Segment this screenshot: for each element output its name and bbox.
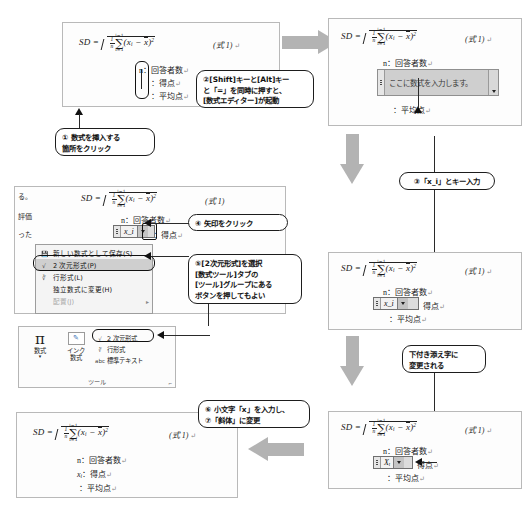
equation-editor-handle[interactable]	[114, 226, 121, 237]
flowchart-canvas: SD = 1n∑i=1i=1(xi − x)2 (式 1) ↵ n：回答者数↵ …	[0, 0, 530, 520]
ribbon-two-dimensional-highlight-ring	[92, 329, 154, 342]
step7-legend-n: n：回答者数↵	[77, 454, 127, 465]
step7-equation-number: (式 1) ↵	[169, 429, 196, 440]
abc-icon: abc	[95, 356, 105, 365]
equation-editor-placeholder: ここに数式を入力します。	[385, 77, 488, 88]
chevron-down-icon[interactable]: ▾	[39, 354, 42, 359]
callout-5-pointer-arrow	[144, 219, 151, 227]
ribbon-pointer-line	[164, 335, 210, 336]
equation-editor-dropdown-arrow[interactable]	[488, 70, 498, 95]
equation-editor-dropdown-arrow[interactable]	[397, 298, 408, 309]
ink-equation-icon: ✎	[68, 332, 85, 345]
step3-document-panel: SD = 1n∑i=1i=1(xi − x)2 (式 1) ↵ n：回答者数↵ …	[328, 252, 522, 330]
step3-legend-n: n：回答者数↵	[383, 286, 433, 297]
equation-editor-subscripted-box[interactable]: Xᵢ	[373, 456, 413, 469]
ribbon-pointer-arrow	[157, 331, 164, 339]
callout-3-stem-lower	[434, 190, 435, 252]
step3-legend-score-tail: ：得点↵	[415, 300, 445, 311]
block-arrow-step4-to-step7	[246, 437, 304, 462]
ribbon-button-label: 標準テキスト	[107, 356, 143, 365]
step5-legend-score-tail: ：得点↵	[153, 229, 183, 240]
callout-5: ④ 矢印をクリック	[188, 214, 288, 231]
step3-equation-number: (式 1) ↵	[465, 265, 492, 276]
ribbon-button-label: インク 数式	[67, 347, 85, 361]
callout-6-line	[151, 256, 189, 257]
step4-legend-n: n：回答者数↵	[383, 445, 433, 456]
step1-pointer-stem	[79, 114, 80, 128]
step4-formula: SD = 1n∑i=1i=1(xi − x)2	[341, 422, 416, 435]
callout-3: ③「x_i」とキー入力	[399, 172, 495, 190]
step1-equation-number: (式 1) ↵	[213, 39, 240, 50]
step5-formula: SD = 1n∑i=1i=1(xi − x)2	[81, 193, 156, 206]
ribbon-button-label: 行形式	[107, 345, 125, 354]
step4-legend-mean: ：平均点↵	[387, 472, 425, 483]
step1-legend-mean: ：平均点↵	[151, 90, 189, 101]
callout-4-stem	[434, 373, 435, 411]
linear-icon: ∛	[95, 345, 105, 354]
step1-legend-score: ：得点↵	[151, 77, 181, 88]
pi-icon: π	[35, 332, 45, 347]
ribbon-button-normal-text[interactable]: abc 標準テキスト	[95, 355, 143, 366]
ribbon-button-equation[interactable]: π 数式 ▾	[25, 332, 55, 359]
callout-3-stem	[434, 136, 435, 172]
equation-editor-handle[interactable]	[378, 70, 385, 95]
step2-legend-n: n：回答者数↵	[383, 57, 433, 68]
context-menu-item-label: 行形式(L)	[53, 272, 83, 282]
equation-editor-handle[interactable]	[374, 298, 381, 309]
step1-formula: SD = 1n∑i=1i=1(xi − x)2	[79, 37, 154, 50]
equation-editor-typed-box[interactable]: x_i	[373, 297, 419, 310]
context-menu-item-linear[interactable]: ∛ 行形式(L)	[36, 271, 152, 283]
dialog-launcher-icon[interactable]: ⌐	[168, 380, 172, 386]
callout-5-line	[151, 223, 189, 224]
step2-legend-mean: ：平均点↵	[393, 104, 431, 115]
equation-editor-typed-value: x_i	[381, 298, 397, 309]
step5-equation-number: (式 1)	[205, 195, 224, 206]
linear-icon: ∛	[38, 272, 50, 282]
context-menu-item-label: 独立数式に変更(H)	[53, 284, 112, 294]
equation-editor-value: x_i	[121, 226, 137, 237]
blank-icon	[38, 284, 50, 294]
step1-insertion-point-ring[interactable]	[135, 61, 149, 99]
block-arrow-step2-to-step3	[340, 134, 365, 186]
step4-legend-score-tail: ：得点↵	[409, 459, 439, 470]
ribbon-button-linear[interactable]: ∛ 行形式	[95, 344, 143, 355]
block-arrow-step3-to-step4	[340, 336, 365, 388]
ribbon-buttons-row: π 数式 ▾ ✎ インク 数式	[25, 332, 91, 361]
context-menu-item-alignment[interactable]: 配置(J) ▸	[36, 295, 152, 307]
step7-legend-mean: ：平均点↵	[79, 482, 117, 493]
ribbon-group-label: ツール	[19, 377, 175, 386]
equation-editor-handle[interactable]	[374, 457, 381, 468]
callout-6-stem-down	[208, 304, 209, 326]
document-fragment-1: る。	[18, 191, 32, 201]
two-dimensional-highlight-ring	[33, 255, 155, 271]
ribbon-button-ink-equation[interactable]: ✎ インク 数式	[61, 332, 91, 361]
callout-2: ②[Shift]キーと[Alt]キー と「=」を同時に押すと、 [数式エディター…	[196, 70, 314, 108]
context-menu-item-change-to-display[interactable]: 独立数式に変更(H)	[36, 283, 152, 295]
step4-equation-number: (式 1) ↵	[465, 424, 492, 435]
callout-6: ⑤[2次元形式]を選択 [数式ツール]タブの [ツール]グループにある ボタンを…	[188, 254, 302, 304]
callout-1: ① 数式を挿入する 箇所をクリック	[55, 128, 155, 156]
callout-6-pointer-arrow	[144, 252, 151, 260]
step7-formula: SD = 1n∑i=1i=1(xi − x)2	[33, 427, 108, 440]
step2-formula: SD = 1n∑i=1i=1(xi − x)2	[341, 31, 416, 44]
document-fragment-3: った	[18, 229, 32, 239]
chevron-right-icon: ▸	[146, 298, 152, 305]
callout-7: ⑥ 小文字「x」を入力し、 ⑦「斜体」に変更	[198, 400, 310, 428]
equation-editor-input[interactable]: ここに数式を入力します。	[377, 69, 499, 96]
step4-pointer-line	[421, 462, 437, 463]
step2-equation-number: (式 1) ↵	[465, 33, 492, 44]
equation-editor-dropdown-arrow[interactable]	[393, 457, 404, 468]
step7-legend-score: xi：得点↵	[77, 468, 112, 480]
document-fragment-2: 評価	[18, 211, 32, 221]
step3-formula: SD = 1n∑i=1i=1(xi − x)2	[341, 263, 416, 276]
step3-legend-mean: ：平均点↵	[389, 313, 427, 324]
context-menu-item-label: 配置(J)	[53, 296, 74, 306]
step1-caret	[141, 69, 142, 89]
callout-4: 下付き添え字に 変更される	[402, 345, 486, 373]
step4-document-panel: SD = 1n∑i=1i=1(xi − x)2 (式 1) ↵ n：回答者数↵ …	[328, 411, 522, 489]
equation-editor-subscripted-value: Xᵢ	[381, 457, 393, 468]
step2-document-panel: SD = 1n∑i=1i=1(xi − x)2 (式 1) ↵ n：回答者数↵ …	[328, 18, 522, 126]
callout-2-pointer-stem	[418, 78, 419, 108]
blank-icon	[38, 296, 50, 306]
